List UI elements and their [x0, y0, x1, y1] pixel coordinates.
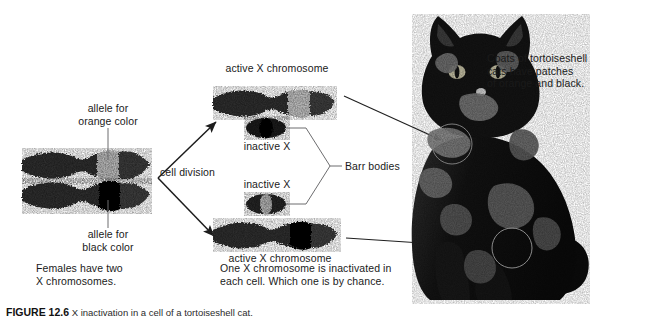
label-cell-division: cell division: [160, 166, 240, 179]
label-inactive-x-top: inactive X: [226, 140, 308, 153]
flank-patch-circle: [492, 228, 532, 268]
caption-coats-of-tortoiseshell: Coats of tortoiseshell cats have patches…: [487, 52, 662, 90]
caption-females-have-two-x: Females have two X chromosomes.: [36, 262, 186, 287]
active-x-chromosome-top: [213, 86, 337, 120]
label-barr-bodies: Barr bodies: [345, 160, 425, 173]
active-x-chromosome-bottom: [213, 218, 341, 252]
caption-one-x-inactivated: One X chromosome is inactivated in each …: [220, 262, 400, 287]
figure-number: FIGURE 12.6: [6, 306, 69, 318]
figure-caption-bar: FIGURE 12.6 X inactivation in a cell of …: [0, 305, 665, 324]
inactive-x-barr-body-top: [244, 116, 290, 140]
shoulder-patch-circle: [432, 124, 472, 164]
label-inactive-x-bottom: inactive X: [226, 178, 308, 191]
label-active-x-top: active X chromosome: [215, 62, 339, 75]
pointer-line-top-to-cat: [344, 96, 441, 140]
cell-division-arrows: [158, 122, 216, 236]
figure-caption-text: X inactivation in a cell of a tortoisesh…: [72, 307, 253, 318]
inactive-x-barr-body-bottom: [244, 192, 290, 216]
maternal-chromosome-pair: [22, 148, 152, 214]
label-allele-black: allele for black color: [58, 228, 158, 253]
pointer-line-bottom-to-cat: [346, 238, 497, 248]
x-inactivation-figure: allele for orange color allele for black…: [0, 0, 665, 324]
figure-caption: FIGURE 12.6 X inactivation in a cell of …: [6, 306, 253, 318]
label-allele-orange: allele for orange color: [58, 102, 158, 127]
